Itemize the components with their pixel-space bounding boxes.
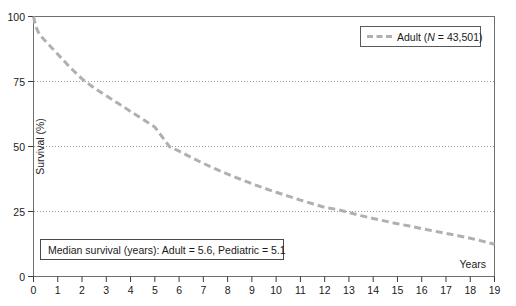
y-tick-label-75: 75	[13, 76, 25, 88]
legend-label-adult-name: Adult	[397, 31, 421, 43]
x-tick-label-14: 14	[367, 284, 379, 296]
x-tick-label-0: 0	[31, 284, 37, 296]
legend-label-adult-n-value: = 43,501	[435, 31, 479, 43]
legend[interactable]: Adult (N = 43,501)	[361, 27, 483, 47]
y-axis-ticks	[28, 17, 34, 277]
y-tick-label-25: 25	[13, 206, 25, 218]
x-tick-label-6: 6	[176, 284, 182, 296]
median-survival-text: Median survival (years): Adult = 5.6, Pe…	[48, 244, 286, 256]
x-tick-label-2: 2	[79, 284, 85, 296]
x-tick-label-16: 16	[416, 284, 428, 296]
x-tick-label-8: 8	[225, 284, 231, 296]
x-axis-title: Years	[460, 258, 486, 270]
x-axis-tick-labels: 012345678910111213141516171819	[31, 284, 501, 296]
y-axis-title: Survival (%)	[34, 118, 46, 175]
y-axis-tick-labels: 100 75 50 25 0	[7, 11, 25, 283]
x-tick-label-19: 19	[489, 284, 501, 296]
median-survival-annotation: Median survival (years): Adult = 5.6, Pe…	[41, 240, 286, 260]
x-axis-ticks	[34, 277, 495, 283]
x-tick-label-9: 9	[249, 284, 255, 296]
x-tick-label-18: 18	[464, 284, 476, 296]
x-tick-label-10: 10	[270, 284, 282, 296]
x-tick-label-3: 3	[103, 284, 109, 296]
x-tick-label-11: 11	[295, 284, 306, 296]
x-tick-label-15: 15	[392, 284, 404, 296]
x-tick-label-17: 17	[440, 284, 452, 296]
y-tick-label-0: 0	[19, 271, 25, 283]
x-tick-label-7: 7	[200, 284, 206, 296]
x-tick-label-5: 5	[152, 284, 158, 296]
x-tick-label-13: 13	[343, 284, 355, 296]
chart-container: 100 75 50 25 0 Survival (%) 012345678910…	[0, 0, 516, 306]
plot-frame	[34, 17, 495, 277]
x-tick-label-12: 12	[319, 284, 331, 296]
x-tick-label-1: 1	[55, 284, 61, 296]
legend-label-adult: Adult (N = 43,501)	[397, 31, 483, 43]
x-tick-label-4: 4	[128, 284, 134, 296]
y-tick-label-100: 100	[7, 11, 25, 23]
survival-curve-chart: 100 75 50 25 0 Survival (%) 012345678910…	[0, 0, 516, 306]
y-tick-label-50: 50	[13, 141, 25, 153]
